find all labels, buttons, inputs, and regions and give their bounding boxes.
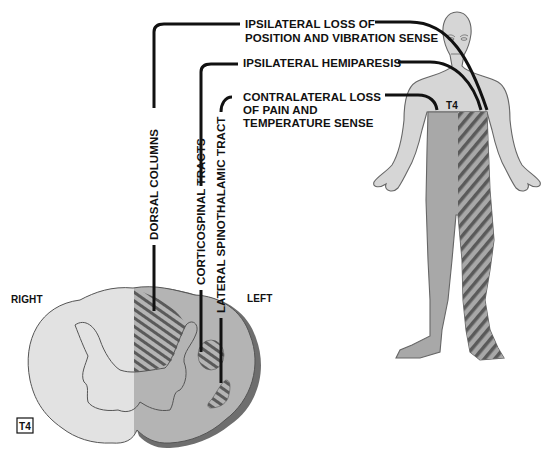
contra-pain-label-line1: CONTRALATERAL LOSS xyxy=(243,91,381,103)
dorsal-columns-label: DORSAL COLUMNS xyxy=(148,129,160,240)
ipsi-position-label-line1: IPSILATERAL LOSS OF xyxy=(245,18,375,30)
contra-pain-label-line3: TEMPERATURE SENSE xyxy=(243,117,374,129)
spinothalamic-tract-label: LATERAL SPINOTHALAMIC TRACT xyxy=(215,117,227,313)
vertical-labels: DORSAL COLUMNS CORTICOSPINAL TRACTS LATE… xyxy=(148,117,227,313)
corticospinal-tracts-label: CORTICOSPINAL TRACTS xyxy=(195,138,207,285)
cord-level-box: T4 xyxy=(17,418,33,433)
right-side-label: RIGHT xyxy=(11,294,43,305)
brown-sequard-diagram: T4 RIGHT LEFT T4 IPSILAT xyxy=(0,0,548,451)
contra-pain-label-line2: OF PAIN AND xyxy=(243,104,318,116)
ipsi-position-label-line2: POSITION AND VIBRATION SENSE xyxy=(245,32,438,44)
body-level-label: T4 xyxy=(446,100,458,111)
cord-level-label: T4 xyxy=(19,421,31,432)
ipsi-hemiparesis-label: IPSILATERAL HEMIPARESIS xyxy=(243,57,401,69)
spinal-cord-section xyxy=(0,280,274,450)
left-side-label: LEFT xyxy=(247,293,272,304)
